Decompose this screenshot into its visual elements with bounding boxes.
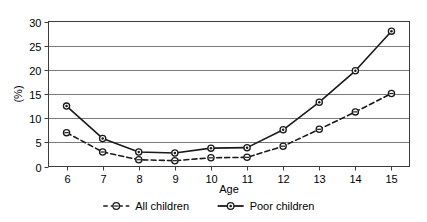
- legend-marker-center-dot: [229, 205, 232, 208]
- x-tick-label: 11: [242, 173, 253, 185]
- data-point-center-dot: [65, 105, 68, 108]
- x-axis-title: Age: [219, 183, 239, 195]
- data-point-center-dot: [354, 70, 357, 73]
- x-tick-label: 9: [172, 173, 178, 185]
- x-tick-label: 10: [205, 173, 217, 185]
- y-tick-label: 25: [29, 41, 41, 53]
- chart-canvas: 051015202530 6789101112131415 (%) Age Al…: [0, 0, 427, 222]
- legend-label: Poor children: [250, 200, 315, 212]
- x-tick-label: 14: [349, 173, 361, 185]
- x-tick-label: 8: [136, 173, 142, 185]
- y-axis-title: (%): [12, 85, 24, 102]
- y-tick-label: 10: [29, 113, 41, 125]
- data-point-center-dot: [390, 30, 393, 32]
- y-tick-label: 15: [29, 89, 41, 101]
- line-chart: 051015202530 6789101112131415 (%) Age Al…: [0, 0, 427, 222]
- y-tick-label: 20: [29, 65, 41, 77]
- x-tick-label: 7: [100, 173, 106, 185]
- y-tick-label: 0: [35, 162, 41, 174]
- data-point-center-dot: [101, 137, 104, 140]
- y-tick-label: 30: [29, 17, 41, 29]
- x-tick-label: 15: [385, 173, 397, 185]
- legend-label: All children: [135, 200, 189, 212]
- x-tick-label: 13: [313, 173, 325, 185]
- data-point-center-dot: [210, 147, 213, 150]
- data-point-center-dot: [246, 146, 249, 149]
- data-point-center-dot: [138, 151, 141, 154]
- x-tick-label: 12: [277, 173, 289, 185]
- data-point-center-dot: [318, 101, 321, 104]
- y-tick-label: 5: [35, 137, 41, 149]
- data-point-center-dot: [282, 129, 285, 132]
- x-tick-label: 6: [64, 173, 70, 185]
- chart-background: [0, 0, 427, 222]
- data-point-center-dot: [174, 152, 177, 155]
